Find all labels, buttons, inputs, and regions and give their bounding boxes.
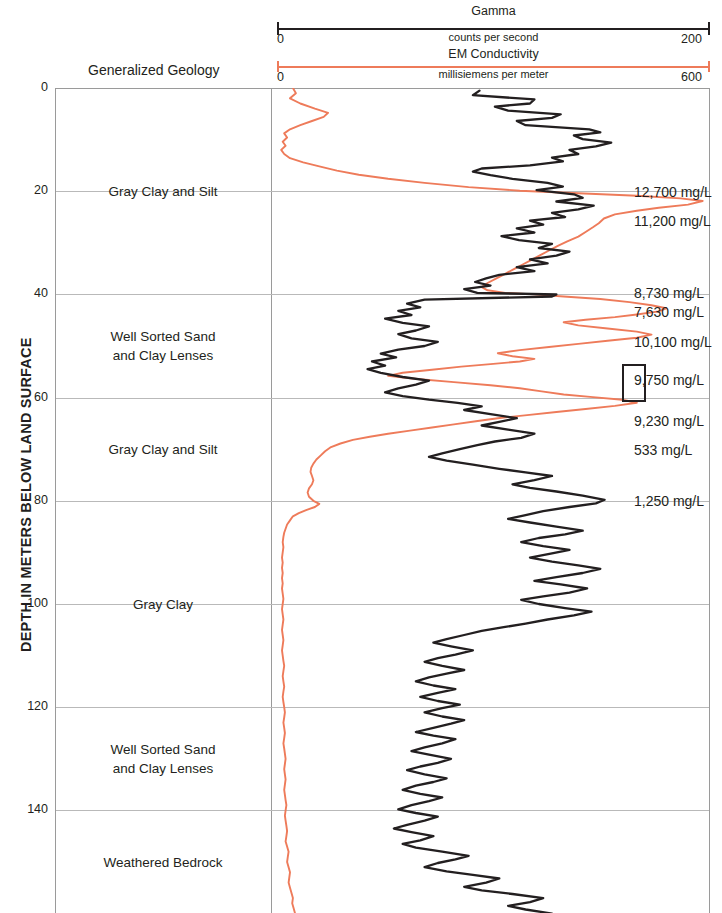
water-quality-annotation: 1,250 mg/L	[634, 493, 704, 509]
water-quality-annotation: 8,730 mg/L	[634, 285, 704, 301]
water-quality-annotation: 11,200 mg/L	[634, 213, 711, 229]
water-quality-annotation: 12,700 mg/L	[634, 184, 712, 200]
well-log-figure: Gamma counts per second 0 200 EM Conduct…	[0, 0, 722, 913]
log-traces	[0, 0, 722, 913]
water-quality-annotation: 533 mg/L	[634, 442, 692, 458]
water-quality-annotation: 7,630 mg/L	[634, 304, 704, 320]
screened-interval-box	[622, 364, 646, 402]
gamma-trace	[368, 91, 612, 913]
water-quality-annotation: 9,230 mg/L	[634, 413, 704, 429]
water-quality-annotation: 10,100 mg/L	[634, 334, 712, 350]
